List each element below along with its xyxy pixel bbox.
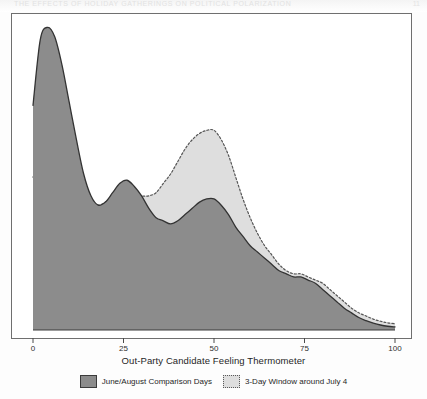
legend-swatch-solid-icon — [80, 375, 97, 388]
x-tick-label: 50 — [210, 344, 219, 353]
density-plot — [11, 13, 412, 339]
x-tick-label: 25 — [119, 344, 128, 353]
scanned-running-head: THE EFFECTS OF HOLIDAY GATHERINGS ON POL… — [0, 0, 427, 12]
chart-legend: June/August Comparison Days 3-Day Window… — [0, 375, 427, 388]
x-tick-label: 100 — [388, 344, 401, 353]
x-tick-label: 0 — [31, 344, 35, 353]
legend-item-july4-window[interactable]: 3-Day Window around July 4 — [223, 375, 347, 388]
legend-label-july4-window: 3-Day Window around July 4 — [245, 377, 347, 386]
x-axis-title: Out-Party Candidate Feeling Thermometer — [0, 355, 427, 366]
x-tick-label: 75 — [300, 344, 309, 353]
legend-label-june-august: June/August Comparison Days — [102, 377, 212, 386]
legend-swatch-dotted-icon — [223, 375, 240, 388]
figure-page: THE EFFECTS OF HOLIDAY GATHERINGS ON POL… — [0, 0, 427, 399]
page-number: 11 — [413, 0, 420, 7]
legend-item-june-august[interactable]: June/August Comparison Days — [80, 375, 212, 388]
running-head-text: THE EFFECTS OF HOLIDAY GATHERINGS ON POL… — [14, 0, 291, 7]
